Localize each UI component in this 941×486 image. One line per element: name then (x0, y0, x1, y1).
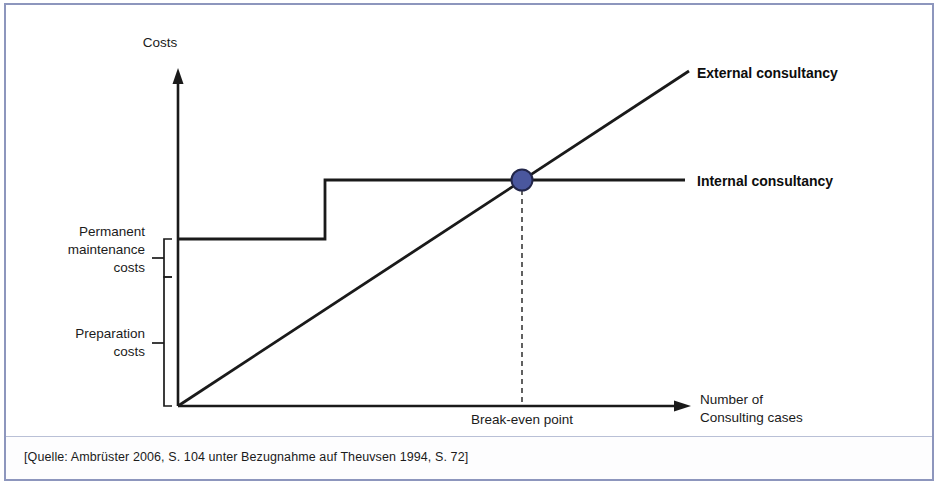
y-axis (173, 68, 184, 406)
y-axis-title: Costs (143, 35, 178, 50)
permanent-maintenance-costs-label-line3: costs (113, 260, 145, 275)
break-even-annotation (512, 170, 533, 405)
preparation-costs-label-line1: Preparation (75, 326, 145, 341)
permanent-maintenance-costs-bracket (152, 239, 172, 277)
preparation-costs-label-line2: costs (113, 344, 145, 359)
figure-page: Costs Number of Consulting cases Break-e… (0, 0, 941, 486)
external-consultancy-label: External consultancy (697, 65, 838, 81)
break-even-label: Break-even point (471, 412, 573, 427)
x-axis (178, 401, 691, 412)
permanent-maintenance-costs-label-line1: Permanent (79, 224, 145, 239)
internal-consultancy-series (178, 180, 685, 239)
x-axis-title-line2: Consulting cases (700, 410, 803, 425)
source-caption-area: [Quelle: Ambrüster 2006, S. 104 unter Be… (6, 438, 932, 480)
break-even-chart: Costs Number of Consulting cases Break-e… (0, 0, 941, 440)
permanent-maintenance-costs-label-line2: maintenance (68, 242, 145, 257)
preparation-costs-bracket (152, 277, 172, 406)
x-axis-title-line1: Number of (700, 392, 763, 407)
source-caption: [Quelle: Ambrüster 2006, S. 104 unter Be… (24, 450, 468, 464)
break-even-marker (512, 170, 533, 191)
internal-consultancy-label: Internal consultancy (697, 173, 833, 189)
